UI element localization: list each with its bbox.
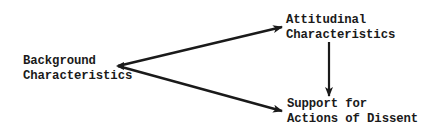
node-label-line: Characteristics bbox=[23, 69, 132, 84]
node-support-for-dissent: Support for Actions of Dissent bbox=[287, 97, 418, 127]
node-label-line: Characteristics bbox=[286, 28, 395, 43]
node-attitudinal-characteristics: Attitudinal Characteristics bbox=[286, 13, 395, 43]
arrow-background-to-attitudinal bbox=[118, 27, 282, 66]
arrow-background-to-support bbox=[118, 66, 282, 111]
node-label-line: Attitudinal bbox=[286, 13, 395, 28]
node-label-line: Actions of Dissent bbox=[287, 112, 418, 127]
node-label-line: Support for bbox=[287, 97, 418, 112]
node-label-line: Background bbox=[23, 54, 132, 69]
node-background-characteristics: Background Characteristics bbox=[23, 54, 132, 84]
